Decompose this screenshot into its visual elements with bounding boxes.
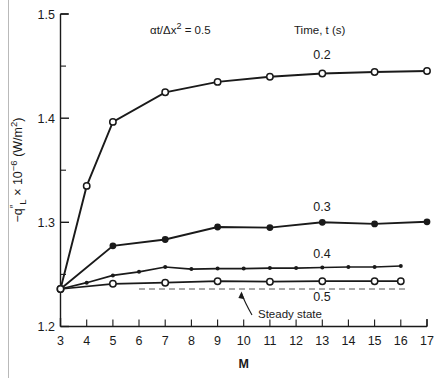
data-point <box>399 264 403 268</box>
x-tick-label-8: 8 <box>188 334 195 348</box>
data-point <box>319 278 325 284</box>
x-tick-label-10: 10 <box>237 334 251 348</box>
series-0-5: 0.5 <box>61 278 404 304</box>
series-label-0-2: 0.2 <box>313 48 330 62</box>
x-tick-label-11: 11 <box>263 334 276 348</box>
parameter-value-text: = 0.5 <box>182 24 211 36</box>
series-label-0-5: 0.5 <box>313 290 330 304</box>
chart-figure: 1.5 1.4 1.3 1.2 3 4 5 6 7 8 9 10 11 12 1… <box>0 0 443 378</box>
origin-data-point <box>57 286 63 292</box>
parameter-annotation: αt/Δx2 = 0.5 <box>150 21 211 36</box>
parameter-alpha-text: αt/Δx <box>150 24 177 36</box>
data-point <box>398 278 404 284</box>
y-title-units-close: ) <box>11 118 25 122</box>
series-label-0-3: 0.3 <box>313 200 330 214</box>
x-tick-label-15: 15 <box>368 334 382 348</box>
series-0-2-markers <box>57 68 430 292</box>
series-label-0-4: 0.4 <box>313 247 330 261</box>
steady-state-label: Steady state <box>258 308 322 320</box>
y-axis-title: −q″L × 10−6 (W/m2) <box>8 118 28 223</box>
series-0-2: 0.2 <box>57 48 430 292</box>
data-point <box>268 266 272 270</box>
y-axis-ticks <box>61 14 70 327</box>
data-point <box>189 267 193 271</box>
legend-heading: Time, t (s) <box>294 24 345 36</box>
x-tick-label-14: 14 <box>341 334 355 348</box>
data-point <box>214 79 220 85</box>
y-title-minus-q: −q <box>11 208 25 222</box>
data-point <box>319 219 326 226</box>
x-tick-label-12: 12 <box>289 334 303 348</box>
x-axis-tick-labels: 3 4 5 6 7 8 9 10 11 12 13 14 15 16 17 <box>57 334 434 348</box>
data-point <box>214 224 221 231</box>
data-point <box>319 70 325 76</box>
series-0-2-line <box>61 71 428 289</box>
y-title-units: (W/m <box>11 127 25 160</box>
x-tick-label-6: 6 <box>136 334 143 348</box>
chart-svg: 1.5 1.4 1.3 1.2 3 4 5 6 7 8 9 10 11 12 1… <box>0 0 443 378</box>
data-point <box>371 69 377 75</box>
x-axis-ticks <box>61 318 428 327</box>
data-point <box>110 119 116 125</box>
y-tick-label-1-4: 1.4 <box>38 112 55 126</box>
data-point <box>110 281 116 287</box>
x-tick-label-4: 4 <box>83 334 90 348</box>
y-tick-label-1-5: 1.5 <box>38 8 55 22</box>
x-tick-label-13: 13 <box>315 334 329 348</box>
data-point <box>373 265 377 269</box>
data-point <box>346 265 350 269</box>
data-point <box>424 68 430 74</box>
data-point <box>242 267 246 271</box>
data-point <box>84 183 90 189</box>
data-point <box>216 267 220 271</box>
data-point <box>424 218 431 225</box>
data-point <box>267 224 274 231</box>
data-point <box>111 273 115 277</box>
data-point <box>162 280 168 286</box>
y-axis-tick-labels: 1.5 1.4 1.3 1.2 <box>38 8 55 335</box>
data-point <box>294 266 298 270</box>
x-tick-label-9: 9 <box>214 334 221 348</box>
x-tick-label-5: 5 <box>109 334 116 348</box>
y-tick-label-1-2: 1.2 <box>38 320 55 334</box>
x-axis-title: M <box>238 357 248 371</box>
data-point <box>85 281 89 285</box>
data-point <box>163 265 167 269</box>
svg-text:−q″L × 10−6 (W/m2): −q″L × 10−6 (W/m2) <box>8 118 28 223</box>
y-tick-label-1-3: 1.3 <box>38 216 55 230</box>
data-point <box>214 278 220 284</box>
steady-state-arrowhead <box>238 292 244 300</box>
data-point <box>162 89 168 95</box>
steady-state-reference: Steady state <box>139 289 405 320</box>
x-tick-label-7: 7 <box>162 334 169 348</box>
data-point <box>267 279 273 285</box>
data-point <box>110 242 117 249</box>
y-title-times-ten: × 10 <box>11 171 25 199</box>
data-point <box>137 270 141 274</box>
data-point <box>371 221 378 228</box>
x-tick-label-3: 3 <box>57 334 64 348</box>
data-point <box>371 278 377 284</box>
x-tick-label-17: 17 <box>420 334 434 348</box>
data-point <box>267 74 273 80</box>
data-point <box>162 236 169 243</box>
x-tick-label-16: 16 <box>394 334 408 348</box>
data-point <box>320 266 324 270</box>
y-title-exponent: −6 <box>8 160 19 171</box>
